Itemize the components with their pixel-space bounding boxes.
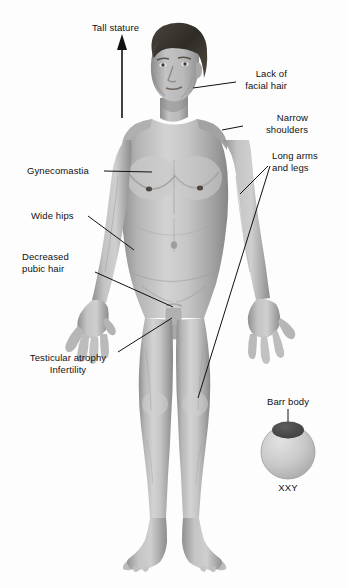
label-narrow-shoulders-line2: shoulders [266, 124, 308, 135]
tall-stature-arrow [117, 34, 127, 118]
head [151, 23, 207, 102]
label-narrow-shoulders: Narrowshoulders [230, 112, 308, 135]
label-narrow-shoulders-line1: Narrow [277, 112, 308, 123]
barr-body-diagram [261, 422, 315, 480]
label-long-arms-and-legs: Long armsand legs [272, 150, 344, 173]
label-long-arms-and-legs-line1: Long arms [272, 150, 318, 161]
label-decreased-pubic-hair-line2: pubic hair [22, 263, 64, 274]
label-lack-of-facial-hair: Lack offacial hair [215, 68, 287, 91]
left-foot [123, 518, 167, 572]
label-lack-of-facial-hair-line1: Lack of [256, 68, 287, 79]
label-lack-of-facial-hair-line2: facial hair [245, 80, 287, 91]
label-testicular-atrophy-line1: Testicular atrophy [30, 352, 106, 363]
label-infertility-line2: Infertility [50, 364, 86, 375]
label-wide-hips: Wide hips [31, 210, 74, 222]
klinefelter-syndrome-figure: Tall stature Lack offacial hair Narrowsh… [0, 0, 347, 588]
label-karyotype-xxy: XXY [258, 482, 318, 494]
label-gynecomastia: Gynecomastia [27, 165, 89, 177]
label-decreased-pubic-hair: Decreasedpubic hair [22, 251, 98, 274]
label-barr-body: Barr body [252, 396, 324, 408]
label-long-arms-and-legs-line2: and legs [272, 162, 309, 173]
anatomical-illustration [0, 0, 347, 588]
label-tall-stature: Tall stature [92, 22, 139, 34]
right-foot [182, 518, 226, 572]
right-hand [248, 299, 295, 364]
label-testicular-atrophy-infertility: Testicular atrophyInfertility [18, 352, 118, 375]
label-decreased-pubic-hair-line1: Decreased [22, 251, 69, 262]
